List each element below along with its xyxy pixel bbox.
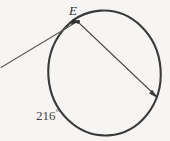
arc-measure-value: 216 [36,108,56,123]
secant-chord-line [78,22,157,97]
external-ray-line [1,21,79,68]
geometry-canvas [0,0,170,141]
arc-measure-label: 216° [36,109,59,122]
circle-shape [44,7,165,140]
point-label-e: E [69,4,77,17]
degree-symbol-icon: ° [56,107,60,117]
point-e-dot-icon [76,20,80,24]
geometry-figure: E 216° [0,0,170,141]
